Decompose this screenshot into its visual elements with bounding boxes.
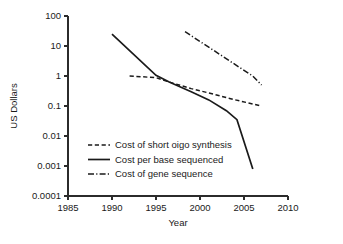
x-tick-label: 1995 [145,202,166,213]
y-tick-label: 10 [50,40,61,51]
y-tick-label: 0.1 [48,100,61,111]
y-tick-label: 1 [56,70,61,81]
x-axis: 198519901995200020052010 [57,196,298,213]
series-line [130,76,262,106]
legend-label: Cost per base sequenced [115,154,223,165]
y-tick-label: 0.0001 [32,190,61,201]
x-tick-label: 2010 [277,202,298,213]
legend-label: Cost of short oigo synthesis [115,139,232,150]
y-axis: 1001010.10.010.0010.0001 [32,10,68,201]
series-line [185,32,262,85]
chart-legend: Cost of short oigo synthesisCost per bas… [88,139,232,179]
x-axis-title: Year [168,217,187,228]
x-tick-label: 2000 [189,202,210,213]
x-tick-label: 1985 [57,202,78,213]
x-tick-label: 2005 [233,202,254,213]
legend-label: Cost of gene sequence [115,168,213,179]
y-tick-label: 100 [45,10,61,21]
y-tick-label: 0.01 [43,130,62,141]
line-chart: 1001010.10.010.0010.0001 198519901995200… [0,0,343,244]
x-tick-label: 1990 [101,202,122,213]
chart-container: 1001010.10.010.0010.0001 198519901995200… [0,0,343,244]
y-axis-title: US Dollars [8,83,19,129]
y-tick-label: 0.001 [37,160,61,171]
